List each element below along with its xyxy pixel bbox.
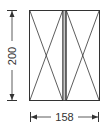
arrow-down-icon [10, 94, 15, 100]
height-label: 200 [6, 47, 18, 65]
window-elevation-diagram: 200 158 [0, 0, 105, 126]
left-panel [30, 11, 64, 101]
right-panel [66, 11, 100, 101]
height-dimension: 200 [6, 11, 18, 101]
arrow-up-icon [10, 11, 15, 17]
arrow-right-icon [92, 115, 98, 120]
arrow-left-icon [31, 115, 37, 120]
width-dimension: 158 [31, 111, 99, 123]
width-label: 158 [55, 111, 73, 123]
